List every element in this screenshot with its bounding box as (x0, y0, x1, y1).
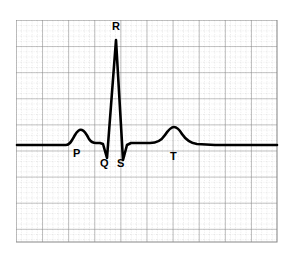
ecg-waveform-figure: P Q R S T (0, 0, 295, 258)
r-wave-label: R (112, 21, 120, 32)
t-wave-label: T (170, 151, 177, 162)
ecg-major-gridlines (16, 20, 277, 242)
ecg-chart-canvas (0, 0, 295, 258)
p-wave-label: P (73, 148, 80, 159)
s-wave-label: S (117, 158, 124, 169)
q-wave-label: Q (100, 158, 109, 169)
